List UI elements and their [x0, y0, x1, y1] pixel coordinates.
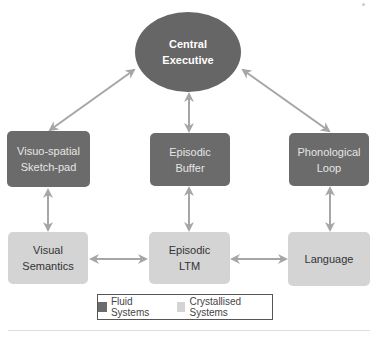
node-label: Phonological [298, 144, 361, 160]
arrow-central-phonological [243, 70, 329, 131]
node-label: LTM [169, 258, 211, 274]
phonological-loop-node: Phonological Loop [289, 133, 369, 186]
language-node: Language [288, 232, 370, 286]
node-label: Buffer [169, 160, 211, 176]
node-label: Sketch-pad [17, 159, 80, 175]
central-executive-label-1: Central [162, 36, 213, 52]
legend-label-fluid: Fluid Systems [111, 296, 167, 318]
visuospatial-sketchpad-node: Visuo-spatial Sketch-pad [7, 131, 90, 187]
central-executive-label-2: Executive [162, 52, 213, 68]
node-label: Visuo-spatial [17, 143, 80, 159]
legend-item-crystallised: Crystallised Systems [177, 296, 272, 318]
arrow-central-visuospatial [50, 70, 134, 130]
node-label: Language [305, 251, 354, 267]
crystallised-swatch-icon [177, 302, 186, 312]
episodic-ltm-node: Episodic LTM [149, 232, 230, 284]
central-executive-node: Central Executive [135, 12, 241, 92]
legend: Fluid Systems Crystallised Systems [97, 294, 273, 320]
legend-label-crystallised: Crystallised Systems [189, 296, 272, 318]
bottom-divider [8, 330, 370, 331]
node-label: Episodic [169, 144, 211, 160]
fluid-swatch-icon [98, 302, 107, 312]
node-label: Loop [298, 160, 361, 176]
node-label: Episodic [169, 242, 211, 258]
visual-semantics-node: Visual Semantics [8, 232, 88, 284]
episodic-buffer-node: Episodic Buffer [150, 133, 230, 186]
node-label: Visual [22, 242, 73, 258]
decorative-dot [362, 3, 365, 6]
legend-item-fluid: Fluid Systems [98, 296, 167, 318]
node-label: Semantics [22, 258, 73, 274]
